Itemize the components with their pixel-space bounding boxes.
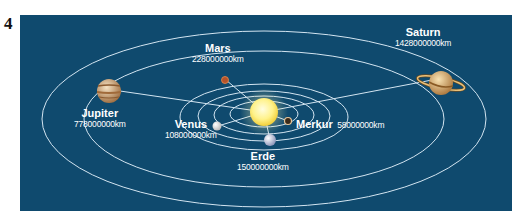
figure-number: 4 (4, 14, 13, 34)
sun (250, 98, 278, 126)
planet-distance: 1428000000km (395, 39, 451, 48)
label-erde: Erde 150000000km (237, 151, 289, 171)
erde-planet (264, 134, 276, 146)
planet-name: Venus (165, 119, 217, 131)
planet-distance: 58000000km (337, 120, 384, 130)
jupiter-planet (97, 79, 121, 103)
planet-distance: 108000000km (165, 131, 217, 140)
planet-name: Mars (192, 43, 244, 55)
planet-distance: 228000000km (192, 55, 244, 64)
planet-distance: 150000000km (237, 163, 289, 172)
label-venus: Venus 108000000km (165, 119, 217, 139)
label-merkur: Merkur 58000000km (296, 115, 384, 132)
label-saturn: Saturn 1428000000km (395, 27, 451, 47)
planet-name: Jupiter (74, 108, 126, 120)
mars-planet (222, 77, 229, 84)
planet-name: Saturn (395, 27, 451, 39)
label-mars: Mars 228000000km (192, 43, 244, 63)
label-jupiter: Jupiter 778000000km (74, 108, 126, 128)
planet-distance: 778000000km (74, 120, 126, 129)
planet-name: Merkur (296, 118, 333, 130)
saturn-planet (416, 71, 465, 95)
merkur-planet (285, 118, 292, 125)
solar-system-diagram: Mars 228000000km Saturn 1428000000km Jup… (20, 15, 512, 211)
planet-name: Erde (237, 151, 289, 163)
